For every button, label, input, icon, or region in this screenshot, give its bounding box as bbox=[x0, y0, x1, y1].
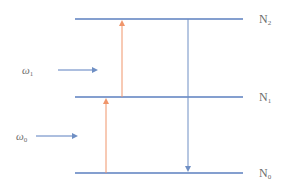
level-label-n1-base: N bbox=[259, 90, 268, 104]
energy-level-diagram bbox=[0, 0, 287, 189]
level-label-n0-base: N bbox=[259, 166, 268, 180]
omega0-symbol: ω bbox=[16, 130, 24, 142]
level-label-n2: N2 bbox=[259, 13, 271, 29]
omega0-sub: 0 bbox=[24, 136, 28, 144]
level-label-n0-sub: 0 bbox=[268, 173, 272, 181]
level-label-n1: N1 bbox=[259, 91, 271, 107]
level-label-n2-sub: 2 bbox=[268, 19, 272, 27]
level-label-n0: N0 bbox=[259, 167, 271, 183]
omega1-symbol: ω bbox=[22, 64, 30, 76]
omega0-label: ω0 bbox=[16, 130, 27, 146]
level-label-n2-base: N bbox=[259, 12, 268, 26]
omega1-label: ω1 bbox=[22, 64, 33, 80]
omega1-sub: 1 bbox=[30, 70, 34, 78]
level-label-n1-sub: 1 bbox=[268, 97, 272, 105]
